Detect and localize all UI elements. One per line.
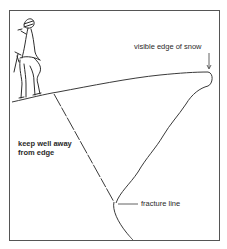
keep-away-label-line2: from edge: [18, 149, 54, 158]
fracture-line-label: fracture line: [141, 200, 180, 209]
snow-surface-line: [12, 72, 212, 102]
cornice-underside-line: [116, 86, 208, 203]
cornice-diagram: [0, 0, 227, 249]
visible-edge-label: visible edge of snow: [134, 43, 202, 52]
lower-slope-line: [114, 202, 133, 240]
mountaineer-figure: [14, 19, 41, 98]
